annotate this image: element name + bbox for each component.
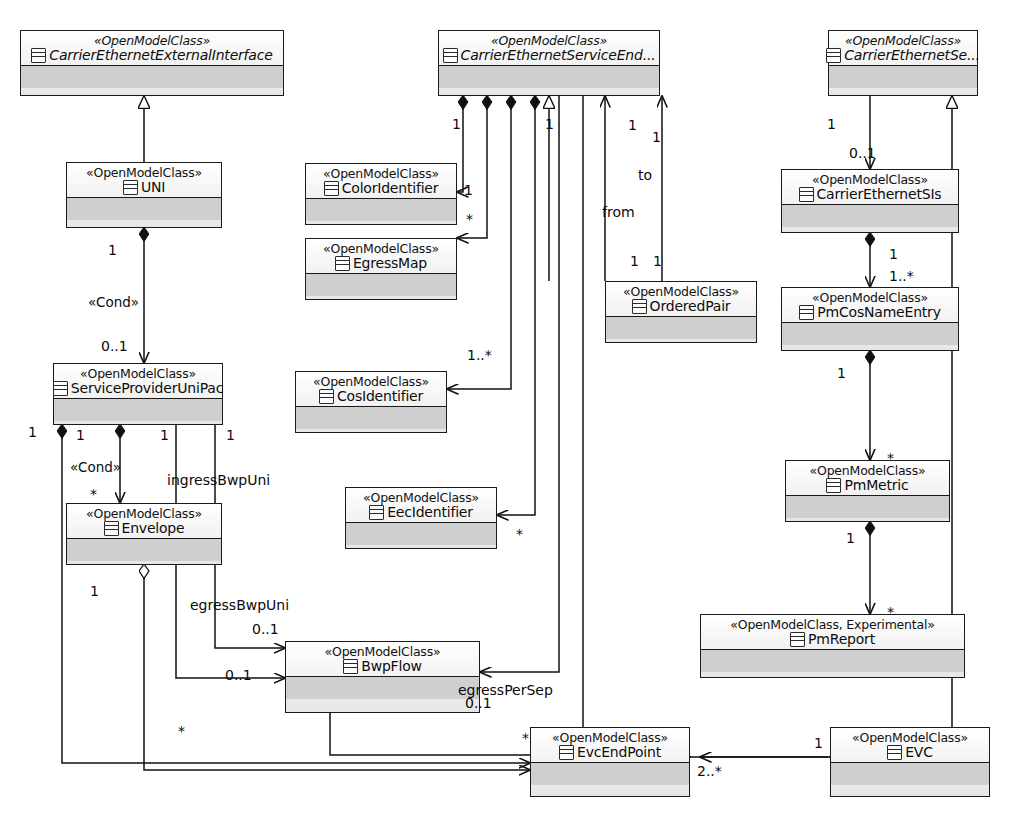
edge-label-mult-s15: * bbox=[522, 731, 529, 745]
edge-label-mult-c2: * bbox=[466, 212, 473, 226]
class-stereotype: «OpenModelClass» bbox=[290, 645, 475, 659]
class-icon bbox=[123, 180, 138, 195]
class-header: «OpenModelClass»PmCosNameEntry bbox=[782, 288, 958, 322]
class-stereotype: «OpenModelClass» bbox=[833, 34, 973, 48]
edge-label-mult-r1: 1 bbox=[827, 117, 836, 131]
edge-label-mult-s10: 0..1 bbox=[252, 622, 279, 636]
class-box-cese[interactable]: «OpenModelClass»CarrierEthernetServiceEn… bbox=[438, 30, 660, 96]
edge-label-mult-s2: 1 bbox=[76, 428, 85, 442]
class-box-env[interactable]: «OpenModelClass»Envelope bbox=[66, 503, 222, 565]
class-stereotype: «OpenModelClass» bbox=[610, 285, 752, 299]
class-name-row: CarrierEthernetServiceEnd... bbox=[443, 48, 655, 63]
edge-label-role-s7: ingressBwpUni bbox=[167, 473, 270, 487]
class-name: EecIdentifier bbox=[387, 505, 473, 520]
class-name-row: Envelope bbox=[71, 521, 217, 536]
class-icon bbox=[799, 305, 814, 320]
class-header: «OpenModelClass»UNI bbox=[67, 163, 221, 197]
edge-label-mult-l1: 1 bbox=[108, 243, 117, 257]
class-name: CarrierEthernetSe... bbox=[844, 48, 980, 63]
class-icon bbox=[443, 48, 458, 63]
edge-label-mult-l3: 0..1 bbox=[101, 339, 128, 353]
class-icon bbox=[790, 632, 805, 647]
edge-label-mult-r7: 1 bbox=[846, 531, 855, 545]
class-box-pmcos[interactable]: «OpenModelClass»PmCosNameEntry bbox=[781, 287, 959, 351]
class-name: ColorIdentifier bbox=[342, 181, 439, 196]
class-header: «OpenModelClass»ServiceProviderUniPac bbox=[54, 364, 222, 398]
class-attributes-compartment bbox=[782, 322, 958, 345]
class-box-pmrep[interactable]: «OpenModelClass, Experimental»PmReport bbox=[700, 614, 965, 678]
edge-label-mult-c4: * bbox=[516, 527, 523, 541]
edge-label-mult-s17: 1 bbox=[814, 736, 823, 750]
class-box-evc[interactable]: «OpenModelClass»EVC bbox=[830, 727, 990, 797]
class-icon bbox=[335, 256, 350, 271]
class-box-opair[interactable]: «OpenModelClass»OrderedPair bbox=[605, 281, 757, 343]
class-name: CarrierEthernetServiceEnd... bbox=[461, 48, 656, 63]
edge-label-mult-m2: 1 bbox=[545, 117, 554, 131]
edge-label-mult-t3: 1 bbox=[630, 254, 639, 268]
class-icon bbox=[31, 48, 46, 63]
class-attributes-compartment bbox=[531, 762, 689, 785]
class-attributes-compartment bbox=[439, 65, 659, 88]
class-box-uni[interactable]: «OpenModelClass»UNI bbox=[66, 162, 222, 228]
class-box-cesi[interactable]: «OpenModelClass»CarrierEthernetSe... bbox=[828, 30, 978, 96]
class-name-row: EgressMap bbox=[310, 256, 452, 271]
class-header: «OpenModelClass»CosIdentifier bbox=[296, 372, 446, 406]
class-name: EgressMap bbox=[353, 256, 427, 271]
class-box-egmap[interactable]: «OpenModelClass»EgressMap bbox=[305, 238, 457, 300]
class-icon bbox=[104, 521, 119, 536]
class-name: ServiceProviderUniPac bbox=[71, 381, 223, 396]
class-header: «OpenModelClass»CarrierEthernetSIs bbox=[782, 170, 958, 204]
class-icon bbox=[826, 478, 841, 493]
edge-label-mult-m1: 1 bbox=[452, 117, 461, 131]
class-name-row: EVC bbox=[835, 745, 985, 760]
edge-label-mult-r8: * bbox=[887, 605, 894, 619]
class-box-pmmet[interactable]: «OpenModelClass»PmMetric bbox=[785, 460, 950, 522]
class-box-cesis[interactable]: «OpenModelClass»CarrierEthernetSIs bbox=[781, 169, 959, 233]
class-header: «OpenModelClass»ColorIdentifier bbox=[306, 164, 456, 198]
class-name: BwpFlow bbox=[361, 659, 422, 674]
edge-label-role-t2: from bbox=[602, 205, 635, 219]
class-name-row: BwpFlow bbox=[290, 659, 475, 674]
class-icon bbox=[343, 659, 358, 674]
edge-label-mult-s4: 1 bbox=[226, 428, 235, 442]
class-header: «OpenModelClass, Experimental»PmReport bbox=[701, 615, 964, 649]
class-header: «OpenModelClass»OrderedPair bbox=[606, 282, 756, 316]
class-icon bbox=[799, 187, 814, 202]
class-box-color[interactable]: «OpenModelClass»ColorIdentifier bbox=[305, 163, 457, 225]
class-name-row: CarrierEthernetExternalInterface bbox=[25, 48, 279, 63]
class-header: «OpenModelClass»CarrierEthernetExternalI… bbox=[21, 31, 283, 65]
class-name: UNI bbox=[141, 180, 165, 195]
class-attributes-compartment bbox=[21, 65, 283, 88]
class-name-row: OrderedPair bbox=[610, 299, 752, 314]
edge-label-mult-t4: 1 bbox=[653, 254, 662, 268]
class-box-eecid[interactable]: «OpenModelClass»EecIdentifier bbox=[345, 487, 497, 549]
class-stereotype: «OpenModelClass» bbox=[535, 731, 685, 745]
class-icon bbox=[369, 505, 384, 520]
class-name-row: EvcEndPoint bbox=[535, 745, 685, 760]
diagram-canvas: «OpenModelClass»CarrierEthernetExternalI… bbox=[0, 0, 1021, 825]
class-name-row: PmCosNameEntry bbox=[786, 305, 954, 320]
class-icon bbox=[319, 389, 334, 404]
edge-label-mult-s8: 1 bbox=[90, 584, 99, 598]
class-box-ceei[interactable]: «OpenModelClass»CarrierEthernetExternalI… bbox=[20, 30, 284, 96]
class-header: «OpenModelClass»EecIdentifier bbox=[346, 488, 496, 522]
class-box-spup[interactable]: «OpenModelClass»ServiceProviderUniPac bbox=[53, 363, 223, 425]
class-name-row: EecIdentifier bbox=[350, 505, 492, 520]
class-stereotype: «OpenModelClass» bbox=[350, 491, 492, 505]
class-stereotype: «OpenModelClass, Experimental» bbox=[705, 618, 960, 632]
class-header: «OpenModelClass»CarrierEthernetSe... bbox=[829, 31, 977, 65]
class-stereotype: «OpenModelClass» bbox=[443, 34, 655, 48]
class-attributes-compartment bbox=[286, 676, 479, 699]
edge-label-mult-r3: 1 bbox=[889, 247, 898, 261]
class-stereotype: «OpenModelClass» bbox=[786, 291, 954, 305]
class-box-cosid[interactable]: «OpenModelClass»CosIdentifier bbox=[295, 371, 447, 433]
class-box-bwp[interactable]: «OpenModelClass»BwpFlow bbox=[285, 641, 480, 713]
edge-label-mult-r2: 0..1 bbox=[849, 146, 876, 160]
class-name-row: ColorIdentifier bbox=[310, 181, 452, 196]
class-icon bbox=[632, 299, 647, 314]
class-box-evcep[interactable]: «OpenModelClass»EvcEndPoint bbox=[530, 727, 690, 797]
class-stereotype: «OpenModelClass» bbox=[835, 731, 985, 745]
edge-label-stereo-s5: «Cond» bbox=[70, 461, 121, 475]
class-header: «OpenModelClass»EVC bbox=[831, 728, 989, 762]
class-name: CarrierEthernetExternalInterface bbox=[49, 48, 272, 63]
